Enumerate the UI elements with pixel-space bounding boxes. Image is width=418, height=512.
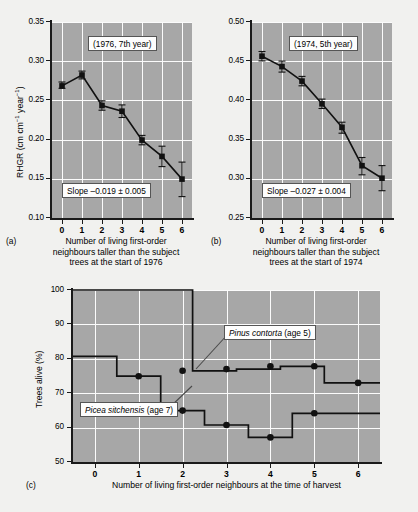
panel-c-label-picea-sitchensis: Picea sitchensis (age 7) <box>80 402 178 417</box>
panel-a-error-bars <box>59 71 186 197</box>
figure-container: 0.35 0.30 0.25 0.20 0.15 0.10 0 1 2 3 4 … <box>0 0 418 512</box>
panel-c-label-picea-italic: Picea sitchensis <box>85 405 145 415</box>
panel-b: 0.50 0.45 0.40 0.35 0.30 0.25 0 1 2 3 4 … <box>209 0 418 270</box>
panel-b-data-svg <box>209 0 418 270</box>
panel-a: 0.35 0.30 0.25 0.20 0.15 0.10 0 1 2 3 4 … <box>0 0 209 270</box>
panel-b-error-bars <box>259 52 386 191</box>
panel-c-label-pinus-contorta: Pinus contorta (age 5) <box>224 325 316 340</box>
panel-c-label-pinus-plain: (age 5) <box>282 328 311 338</box>
panel-c-data-svg <box>0 270 418 512</box>
panel-b-data-line <box>262 56 382 178</box>
panel-c-label-pinus-italic: Pinus contorta <box>229 328 282 338</box>
panel-a-data-svg <box>0 0 209 270</box>
panel-c: 100 90 80 70 60 50 0 1 2 3 4 5 6 Trees a… <box>0 270 418 512</box>
panel-a-data-points <box>59 72 185 182</box>
panel-b-data-points <box>259 53 385 181</box>
panel-a-data-line <box>62 75 182 179</box>
panel-c-label-picea-plain: (age 7) <box>145 405 174 415</box>
